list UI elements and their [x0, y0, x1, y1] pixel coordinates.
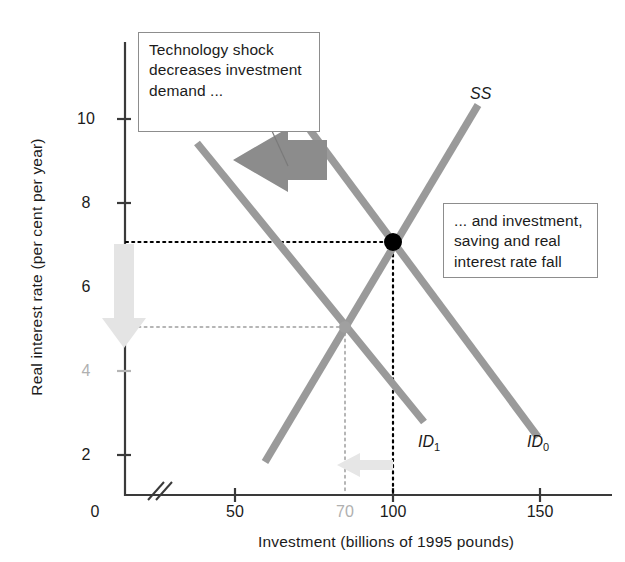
curve-label-id1-text: ID	[418, 433, 434, 450]
curve-label-id1-sub: 1	[434, 441, 440, 453]
y-tick-label-8: 8	[66, 194, 106, 212]
curve-label-id0-sub: 0	[543, 441, 549, 453]
curve-label-id1: ID1	[418, 433, 440, 453]
curve-label-id0-text: ID	[527, 433, 543, 450]
x-tick-label-0: 0	[75, 503, 115, 521]
rate-fall-arrow-icon	[102, 244, 146, 348]
curve-label-id0: ID0	[527, 433, 549, 453]
x-axis-title: Investment (billions of 1995 pounds)	[258, 533, 514, 551]
x-axis-break-icon	[148, 482, 172, 500]
x-tick-label-100: 100	[373, 503, 413, 521]
y-tick-label-10: 10	[66, 110, 106, 128]
curve-label-ss: SS	[470, 85, 491, 103]
x-tick-label-150: 150	[520, 503, 560, 521]
y-axis-title: Real interest rate (per cent per year)	[28, 127, 46, 407]
new-equilibrium-point	[339, 321, 351, 333]
y-tick-label-6: 6	[66, 278, 106, 296]
y-tick-label-4: 4	[66, 362, 106, 380]
y-tick-label-2: 2	[66, 446, 106, 464]
investment-saving-chart: Technology shock decreases investment de…	[0, 0, 625, 562]
callout-investment-saving-fall: ... and investment, saving and real inte…	[443, 203, 598, 278]
x-tick-label-50: 50	[215, 503, 255, 521]
x-tick-label-70: 70	[325, 503, 365, 521]
callout-technology-shock: Technology shock decreases investment de…	[138, 32, 320, 132]
initial-equilibrium-point	[384, 233, 402, 251]
